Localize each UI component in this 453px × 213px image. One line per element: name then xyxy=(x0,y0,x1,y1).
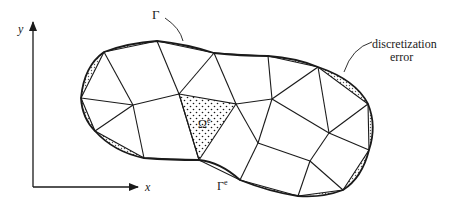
gamma-e-label: Γe xyxy=(217,178,228,193)
fem-diagram: y x Γ Γe Ωe discretization error xyxy=(0,0,453,213)
gamma-label: Γ xyxy=(152,7,160,22)
element-omega-e xyxy=(179,94,236,160)
gamma-leader-line xyxy=(165,18,183,41)
discretization-error-label-line2: error xyxy=(390,50,413,64)
omega-e-superscript: e xyxy=(207,116,211,125)
discretization-error-label-line1: discretization xyxy=(372,37,437,51)
discretization-error-leader-line xyxy=(344,42,372,72)
omega-e-symbol: Ω xyxy=(198,117,207,131)
gamma-e-symbol: Γ xyxy=(217,179,224,193)
y-axis-label: y xyxy=(17,22,24,36)
gamma-e-superscript: e xyxy=(224,178,228,187)
x-axis-label: x xyxy=(144,180,151,194)
